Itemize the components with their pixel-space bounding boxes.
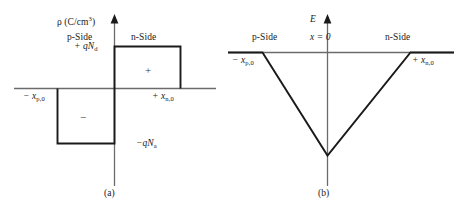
y-axis-label-b: E — [310, 15, 316, 25]
label-minus-xp0-a-text: − x — [23, 91, 36, 101]
label-minus-xp0-b-text: − x — [232, 55, 245, 65]
label-plus-qnd-text: + qN — [74, 41, 94, 51]
electric-field-curve — [228, 53, 454, 156]
label-n-side-a: n-Side — [131, 33, 156, 43]
label-plus-qnd: + qNd — [74, 42, 98, 52]
label-minus-qna-sub: a — [154, 142, 157, 149]
y-axis-arrow-a — [111, 14, 119, 24]
label-plus-xn0-b: + xn,0 — [412, 56, 434, 66]
label-minus-xp0-a-sub: p,0 — [36, 95, 45, 102]
label-n-side-b: n-Side — [385, 33, 410, 43]
label-plus-xn0-a-sub: n,0 — [165, 95, 174, 102]
y-axis-label-a-text: ρ (C/cm — [57, 17, 89, 27]
charge-density-svg — [0, 0, 228, 211]
label-plus-xn0-b-sub: n,0 — [425, 59, 434, 66]
label-minus-xp0-a: − xp,0 — [23, 92, 45, 102]
y-axis-label-a-exponent: 3 — [89, 15, 92, 22]
label-minus-qna-text: −qN — [136, 138, 154, 148]
label-plus-xn0-a: + xn,0 — [152, 92, 174, 102]
y-axis-label-a-close: ) — [92, 17, 95, 27]
label-x-equals-zero: x = 0 — [310, 33, 331, 43]
y-axis-arrow-b — [324, 14, 332, 24]
caption-a: (a) — [104, 188, 115, 198]
label-minus-xp0-b-sub: p,0 — [245, 59, 254, 66]
negative-charge-symbol: − — [80, 112, 86, 123]
label-minus-qna: −qNa — [136, 139, 157, 149]
caption-b: (b) — [318, 188, 329, 198]
positive-charge-symbol: + — [145, 65, 151, 76]
figure-root: ρ (C/cm3) p-Side n-Side + qNd −qNa − xp,… — [0, 0, 457, 211]
panel-charge-density: ρ (C/cm3) p-Side n-Side + qNd −qNa − xp,… — [0, 0, 228, 211]
label-plus-xn0-a-text: + x — [152, 91, 165, 101]
y-axis-label-a: ρ (C/cm3) — [57, 18, 95, 28]
label-minus-xp0-b: − xp,0 — [232, 56, 254, 66]
panel-electric-field: E x = 0 p-Side n-Side − xp,0 + xn,0 (b) — [228, 0, 457, 211]
label-plus-xn0-b-text: + x — [412, 55, 425, 65]
label-plus-qnd-sub: d — [94, 45, 97, 52]
label-p-side-b: p-Side — [252, 33, 277, 43]
